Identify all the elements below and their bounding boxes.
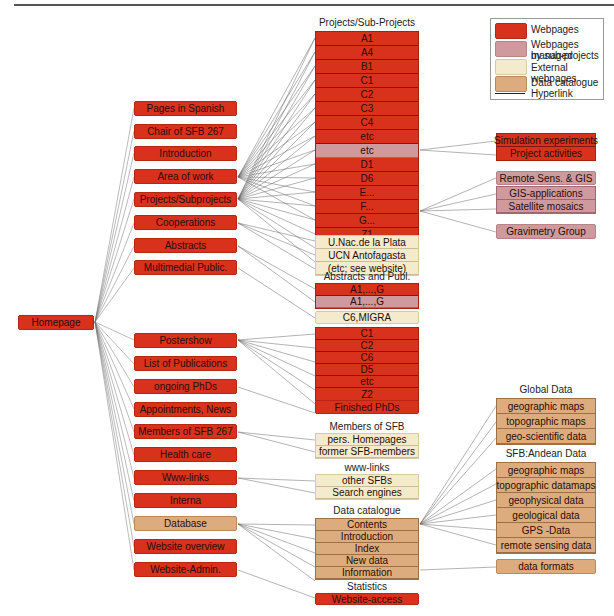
cooperations-stack: U.Nac.de la Plata UCN Antofagasta (etc; … — [315, 235, 419, 276]
members-stack: pers. Homepages former SFB-members — [315, 433, 419, 459]
legend-swatch-catalogue — [495, 76, 527, 92]
node-project-activities[interactable]: Project activities — [497, 147, 595, 160]
node-poster-c2[interactable]: C2 — [316, 340, 418, 352]
node-project-a4[interactable]: A4 — [316, 46, 418, 60]
node-project-d6[interactable]: D6 — [316, 172, 418, 186]
node-catalogue-introduction[interactable]: Introduction — [316, 531, 418, 543]
node-project-g[interactable]: G... — [316, 214, 418, 228]
node-list-of-publications[interactable]: List of Publications — [134, 356, 237, 371]
node-poster-c1[interactable]: C1 — [316, 328, 418, 340]
node-project-etc-managed[interactable]: etc — [316, 144, 418, 158]
heading-andean-data: SFB:Andean Data — [496, 448, 596, 459]
node-homepage[interactable]: Homepage — [18, 315, 94, 330]
node-introduction[interactable]: Introduction — [134, 146, 237, 161]
node-andean-gps-data[interactable]: GPS -Data — [497, 523, 595, 538]
node-poster-c6[interactable]: C6 — [316, 352, 418, 364]
node-andean-topographic-datamaps[interactable]: topographic datamaps — [497, 478, 595, 493]
node-project-a1[interactable]: A1 — [316, 32, 418, 46]
node-ongoing-phds[interactable]: ongoing PhDs — [134, 379, 237, 394]
d6-children-stack: Simulation experiments Project activitie… — [496, 133, 596, 161]
node-ucn-antofagasta[interactable]: UCN Antofagasta — [316, 249, 418, 262]
node-former-members[interactable]: former SFB-members — [316, 446, 418, 458]
global-data-stack: geographic maps topographic maps geo-sci… — [496, 398, 596, 445]
node-projects-subprojects[interactable]: Projects/Subprojects — [134, 192, 237, 207]
node-abstracts-a1-g-managed[interactable]: A1,...,G — [316, 296, 418, 308]
node-abstracts[interactable]: Abstracts — [134, 238, 237, 253]
node-search-engines[interactable]: Search engines — [316, 487, 418, 499]
node-website-overview[interactable]: Website overview — [134, 539, 237, 554]
node-global-geo-scientific-data[interactable]: geo-scientific data — [497, 429, 595, 444]
node-postershow[interactable]: Postershow — [134, 333, 237, 348]
legend-label-managed-line2: by sub-projects — [531, 50, 599, 61]
node-chair-sfb-267[interactable]: Chair of SFB 267 — [134, 124, 237, 139]
node-poster-d5[interactable]: D5 — [316, 364, 418, 376]
node-satellite-mosaics[interactable]: Satellite mosaics — [497, 200, 595, 213]
node-global-topographic-maps[interactable]: topographic maps — [497, 414, 595, 429]
heading-members: Members of SFB — [315, 421, 419, 432]
node-abstracts-a1-g[interactable]: A1,...,G — [316, 284, 418, 296]
node-remote-sens-gis[interactable]: Remote Sens. & GIS — [496, 171, 596, 185]
node-pages-in-spanish[interactable]: Pages in Spanish — [134, 101, 237, 116]
node-area-of-work[interactable]: Area of work — [134, 169, 237, 184]
node-appointments-news[interactable]: Appointments, News — [134, 402, 237, 417]
node-members-sfb-267[interactable]: Members of SFB 267 — [134, 424, 237, 439]
node-catalogue-contents[interactable]: Contents — [316, 519, 418, 531]
node-project-d1[interactable]: D1 — [316, 158, 418, 172]
node-catalogue-new-data[interactable]: New data — [316, 555, 418, 567]
data-catalogue-stack: Contents Introduction Index New data Inf… — [315, 518, 419, 580]
legend-label-webpages: Webpages — [531, 24, 579, 35]
node-pers-homepages[interactable]: pers. Homepages — [316, 434, 418, 446]
www-links-stack: other SFBs Search engines — [315, 474, 419, 500]
node-finished-phds[interactable]: Finished PhDs — [315, 400, 419, 414]
node-interna[interactable]: Interna — [134, 493, 237, 508]
node-www-links[interactable]: Www-links — [134, 470, 237, 485]
node-project-f[interactable]: F... — [316, 200, 418, 214]
node-andean-geographic-maps[interactable]: geographic maps — [497, 463, 595, 478]
legend-hyperlink-line — [495, 93, 525, 94]
node-project-etc[interactable]: etc — [316, 130, 418, 144]
legend-swatch-webpages — [495, 23, 527, 39]
heading-projects: Projects/Sub-Projects — [315, 17, 419, 28]
node-andean-geological-data[interactable]: geological data — [497, 508, 595, 523]
node-global-geographic-maps[interactable]: geographic maps — [497, 399, 595, 414]
postershow-stack: C1 C2 C6 D5 etc Z2 — [315, 327, 419, 401]
heading-global-data: Global Data — [496, 384, 596, 395]
node-simulation-experiments[interactable]: Simulation experiments — [497, 134, 595, 147]
heading-abstracts: Abstracts and Publ. — [315, 271, 419, 282]
node-poster-z2[interactable]: Z2 — [316, 388, 418, 400]
node-unac-la-plata[interactable]: U.Nac.de la Plata — [316, 236, 418, 249]
andean-data-stack: geographic maps topographic datamaps geo… — [496, 462, 596, 554]
node-catalogue-information[interactable]: Information — [316, 567, 418, 579]
gis-stack: GIS-applications Satellite mosaics — [496, 186, 596, 214]
node-project-c1[interactable]: C1 — [316, 74, 418, 88]
legend: Webpages Webpages managed by sub-project… — [490, 18, 604, 100]
node-gis-applications[interactable]: GIS-applications — [497, 187, 595, 200]
heading-www-links: www-links — [315, 462, 419, 473]
legend-label-catalogue: Data catalogue — [531, 77, 598, 88]
node-c6-migra[interactable]: C6,MIGRA — [315, 311, 419, 324]
node-other-sfbs[interactable]: other SFBs — [316, 475, 418, 487]
node-cooperations[interactable]: Cooperations — [134, 215, 237, 230]
node-website-access[interactable]: Website-access — [315, 593, 419, 605]
node-website-admin[interactable]: Website-Admin. — [134, 562, 237, 577]
heading-statistics: Statistics — [315, 581, 419, 592]
abstracts-stack: A1,...,G A1,...,G — [315, 283, 419, 309]
node-project-c3[interactable]: C3 — [316, 102, 418, 116]
node-data-formats[interactable]: data formats — [496, 559, 596, 574]
node-health-care[interactable]: Health care — [134, 447, 237, 462]
node-poster-etc[interactable]: etc — [316, 376, 418, 388]
legend-swatch-managed — [495, 41, 527, 57]
heading-data-catalogue: Data catalogue — [315, 505, 419, 516]
node-project-c2[interactable]: C2 — [316, 88, 418, 102]
node-multimedial-public[interactable]: Multimedial Public. — [134, 260, 237, 275]
node-project-b1[interactable]: B1 — [316, 60, 418, 74]
legend-label-hyperlink: Hyperlink — [531, 88, 573, 99]
node-project-c4[interactable]: C4 — [316, 116, 418, 130]
node-gravimetry-group[interactable]: Gravimetry Group — [496, 224, 596, 239]
node-andean-geophysical-data[interactable]: geophysical data — [497, 493, 595, 508]
node-project-e[interactable]: E... — [316, 186, 418, 200]
legend-swatch-external — [495, 59, 527, 75]
node-database[interactable]: Database — [134, 516, 237, 531]
node-catalogue-index[interactable]: Index — [316, 543, 418, 555]
node-andean-remote-sensing-data[interactable]: remote sensing data — [497, 538, 595, 553]
